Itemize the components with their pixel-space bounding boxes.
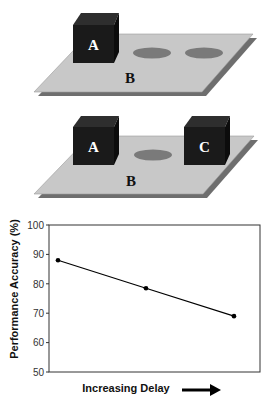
target-ellipse <box>185 48 223 59</box>
scene-1-illustration: A B <box>0 0 274 105</box>
plate-b <box>34 34 253 92</box>
cube-label: C <box>199 139 210 155</box>
plot-frame <box>49 225 260 372</box>
plate-label: B <box>125 70 135 86</box>
data-point <box>144 286 149 291</box>
target-ellipse <box>133 48 171 59</box>
y-tick-label: 50 <box>33 367 45 378</box>
right-arrow-icon <box>182 384 221 396</box>
y-tick-label: 80 <box>33 279 45 290</box>
cube-label: A <box>88 37 99 53</box>
y-axis-label: Performance Accuracy (%) <box>8 219 20 359</box>
target-ellipse <box>134 150 172 161</box>
x-axis-label: Increasing Delay <box>82 382 170 394</box>
line-chart: Performance Accuracy (%) 100 90 80 70 60… <box>0 210 274 408</box>
y-tick-label: 100 <box>27 220 44 231</box>
data-point <box>56 258 61 263</box>
cube-label: A <box>88 139 99 155</box>
scene-2-illustration: A C B <box>0 105 274 205</box>
y-tick-label: 60 <box>33 337 45 348</box>
y-tick-label: 90 <box>33 249 45 260</box>
cube-a: A <box>73 116 119 165</box>
cube-a: A <box>73 13 119 63</box>
data-point <box>232 314 237 319</box>
y-axis-ticks: 100 90 80 70 60 50 <box>27 220 49 378</box>
plate-label: B <box>126 173 136 189</box>
y-tick-label: 70 <box>33 308 45 319</box>
data-series <box>56 258 237 318</box>
cube-c: C <box>184 116 230 165</box>
